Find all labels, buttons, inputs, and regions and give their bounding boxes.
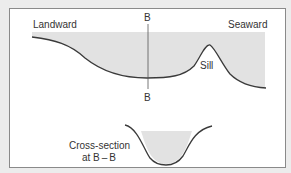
cross-section-label-line1: Cross-section — [69, 140, 130, 151]
seaward-label: Seaward — [228, 19, 267, 30]
section-b-bottom-label: B — [144, 92, 151, 103]
landward-label: Landward — [33, 19, 77, 30]
section-b-top-label: B — [144, 12, 151, 23]
water-cross-section — [141, 131, 192, 164]
cross-section-label-line2: at B – B — [82, 152, 116, 163]
sill-label: Sill — [200, 60, 213, 71]
water-longitudinal — [32, 32, 265, 88]
